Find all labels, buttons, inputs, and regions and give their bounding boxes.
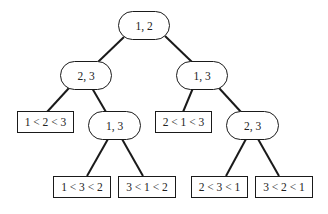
node-label: 2, 3 [244,120,261,132]
edge-l-lr [92,88,106,112]
leaf-lrr: 3 < 1 < 2 [118,176,176,198]
node-l-compare-2-3: 2, 3 [60,61,112,90]
edge-l-ll [47,88,69,112]
node-rr-compare-2-3: 2, 3 [226,111,279,140]
leaf-label: 2 < 1 < 3 [163,116,205,128]
node-label: 1, 3 [193,70,210,82]
leaf-ll: 1 < 2 < 3 [17,111,74,133]
node-label: 2, 3 [77,70,94,82]
leaf-label: 1 < 2 < 3 [25,116,67,128]
leaf-rrl: 2 < 3 < 1 [191,176,248,198]
node-lr-compare-1-3: 1, 3 [88,111,141,140]
leaf-rrr: 3 < 2 < 1 [255,176,313,198]
leaf-label: 2 < 3 < 1 [199,181,241,193]
edge-lr-lrr [122,139,143,176]
node-label: 1, 3 [106,120,123,132]
edge-rr-rrl [226,139,246,176]
node-r-compare-1-3: 1, 3 [176,61,228,90]
leaf-lrl: 1 < 3 < 2 [53,176,111,198]
leaf-rl: 2 < 1 < 3 [155,111,212,133]
edge-r-rr [219,88,241,112]
edge-root-r [165,36,192,62]
edge-r-rl [183,88,193,112]
edge-root-l [98,37,124,62]
edge-lr-lrl [87,139,108,176]
leaf-label: 3 < 2 < 1 [263,181,305,193]
leaf-label: 1 < 3 < 2 [61,181,103,193]
edge-rr-rrr [258,139,279,176]
node-root-compare-1-2: 1, 2 [118,11,170,40]
node-label: 1, 2 [135,20,152,32]
leaf-label: 3 < 1 < 2 [126,181,168,193]
